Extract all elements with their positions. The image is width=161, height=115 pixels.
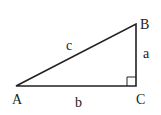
vertex-label-a: A [12,92,23,107]
right-angle-marker [127,77,136,86]
side-label-c: c [66,38,72,53]
right-triangle-diagram: A B C a b c [0,0,161,115]
triangle-abc [16,24,136,86]
vertex-label-c: C [136,92,145,107]
vertex-label-b: B [140,17,149,32]
side-label-a: a [143,46,150,61]
side-label-b: b [75,95,82,110]
